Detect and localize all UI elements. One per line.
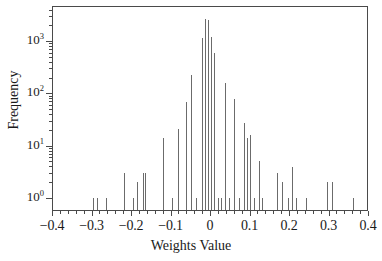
x-axis-minor-tick (242, 211, 243, 214)
x-axis-minor-tick (218, 211, 219, 214)
y-axis-minor-tick (49, 53, 52, 54)
x-axis-minor-tick (155, 211, 156, 214)
y-axis-minor-tick (49, 105, 52, 106)
histogram-bar (196, 198, 197, 210)
histogram-bar (282, 182, 283, 210)
x-axis-minor-tick (321, 211, 322, 214)
x-axis-minor-tick (60, 211, 61, 214)
histogram-bar (247, 138, 248, 210)
y-axis-minor-tick (49, 16, 52, 17)
histogram-bar (259, 161, 260, 210)
histogram-bar (250, 135, 251, 210)
x-axis-minor-tick (313, 211, 314, 214)
histogram-bar (145, 173, 146, 210)
y-axis-tick (46, 198, 52, 199)
x-tick-label: 0.2 (267, 218, 311, 234)
x-axis-minor-tick (147, 211, 148, 214)
histogram-bar (205, 19, 206, 210)
y-axis-minor-tick (49, 121, 52, 122)
y-axis-minor-tick (49, 173, 52, 174)
y-axis-minor-tick (49, 10, 52, 11)
x-axis-minor-tick (336, 211, 337, 214)
x-tick-label: 0.1 (228, 218, 272, 234)
x-tick-label: −0.1 (149, 218, 193, 234)
histogram-bar (143, 173, 144, 210)
x-axis-minor-tick (273, 211, 274, 214)
histogram-bar (93, 198, 94, 210)
x-axis-tick (131, 211, 132, 216)
x-axis-minor-tick (84, 211, 85, 214)
y-axis-tick (46, 41, 52, 42)
x-axis-minor-tick (123, 211, 124, 214)
y-axis-minor-tick (49, 49, 52, 50)
x-tick-label: −0.2 (109, 218, 153, 234)
y-axis-minor-tick (49, 109, 52, 110)
x-axis-tick (329, 211, 330, 216)
x-axis-minor-tick (226, 211, 227, 214)
x-axis-minor-tick (344, 211, 345, 214)
y-axis-minor-tick (49, 98, 52, 99)
histogram-bar (202, 38, 203, 210)
histogram-bar (214, 53, 215, 210)
histogram-figure: −0.4−0.3−0.2−0.100.10.20.30.4 1001011021… (0, 0, 382, 261)
y-axis-minor-tick (49, 114, 52, 115)
x-axis-minor-tick (99, 211, 100, 214)
x-tick-label: 0 (188, 218, 232, 234)
x-axis-minor-tick (115, 211, 116, 214)
y-tick-label: 101 (27, 137, 44, 153)
x-axis-minor-tick (297, 211, 298, 214)
histogram-bar (133, 198, 134, 210)
x-axis-minor-tick (194, 211, 195, 214)
y-axis-minor-tick (49, 148, 52, 149)
x-tick-label: −0.3 (70, 218, 114, 234)
histogram-bar (137, 182, 138, 210)
x-tick-label: −0.4 (30, 218, 74, 234)
histogram-bar (191, 75, 192, 210)
histogram-bar (353, 198, 354, 210)
x-axis-tick (289, 211, 290, 216)
histogram-bar (97, 198, 98, 210)
y-axis-label: Frequency (6, 40, 22, 160)
x-axis-tick (250, 211, 251, 216)
histogram-bar (332, 182, 333, 210)
x-axis-tick (368, 211, 369, 216)
histogram-bar (106, 198, 107, 210)
y-axis-tick (46, 146, 52, 147)
x-tick-label: 0.4 (346, 218, 382, 234)
x-axis-minor-tick (178, 211, 179, 214)
histogram-bar (208, 20, 209, 210)
histogram-bar (225, 83, 226, 210)
histogram-bar (292, 167, 293, 211)
histogram-bar (254, 198, 255, 210)
histogram-bar (186, 102, 187, 210)
y-tick-label: 100 (27, 189, 44, 205)
x-axis-minor-tick (360, 211, 361, 214)
x-axis-minor-tick (234, 211, 235, 214)
x-axis-minor-tick (305, 211, 306, 214)
histogram-bar (327, 182, 328, 210)
x-axis-minor-tick (257, 211, 258, 214)
y-axis-tick (46, 93, 52, 94)
y-axis-minor-tick (49, 182, 52, 183)
x-axis-minor-tick (76, 211, 77, 214)
x-axis-minor-tick (265, 211, 266, 214)
x-axis-minor-tick (281, 211, 282, 214)
x-axis-minor-tick (163, 211, 164, 214)
y-axis-minor-tick (49, 25, 52, 26)
x-axis-label: Weights Value (0, 238, 382, 254)
y-axis-minor-tick (49, 78, 52, 79)
histogram-bar (244, 123, 245, 210)
histogram-bar (306, 198, 307, 210)
histogram-bar (262, 198, 263, 210)
y-axis-minor-tick (49, 157, 52, 158)
y-tick-label: 103 (27, 32, 44, 48)
histogram-bar (124, 173, 125, 210)
y-axis-minor-tick (49, 96, 52, 97)
x-axis-tick (52, 211, 53, 216)
histogram-bar (234, 99, 235, 210)
y-axis-minor-tick (49, 57, 52, 58)
plot-area (52, 6, 368, 211)
bars-layer (53, 7, 367, 210)
x-tick-label: 0.3 (307, 218, 351, 234)
x-axis-tick (210, 211, 211, 216)
